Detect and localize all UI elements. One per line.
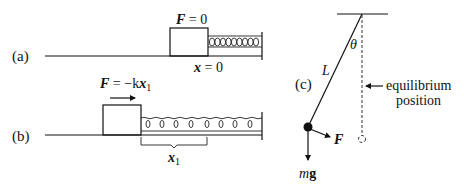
equilibrium-label-line1: equilibrium	[386, 78, 451, 93]
force-label-a: F = 0	[175, 12, 207, 27]
spring-b	[141, 117, 262, 131]
block-b	[103, 105, 141, 135]
equilibrium-bob	[359, 136, 366, 143]
restoring-force-label: F	[333, 132, 344, 147]
panel-b-label: (b)	[12, 128, 30, 145]
force-label-b: F = −kx1	[99, 76, 151, 93]
pendulum-bob	[304, 123, 313, 132]
physics-diagram: (a) F = 0 x = 0 (b) F = −kx1	[0, 0, 472, 189]
spring-a	[208, 36, 262, 47]
displacement-brace	[141, 137, 207, 148]
block-a	[170, 28, 208, 56]
weight-label: mg	[299, 166, 316, 181]
panel-b: (b) F = −kx1 x1	[12, 76, 262, 167]
panel-a-label: (a)	[12, 48, 29, 65]
position-label-a: x = 0	[193, 60, 223, 75]
equilibrium-label-line2: position	[396, 93, 441, 108]
restoring-force-arrow	[310, 129, 330, 137]
pendulum-rod	[308, 14, 362, 127]
length-label: L	[321, 63, 330, 78]
angle-label: θ	[350, 37, 357, 52]
panel-c-label: (c)	[295, 76, 312, 93]
displacement-label-b: x1	[167, 150, 180, 167]
panel-a: (a) F = 0 x = 0	[12, 12, 262, 75]
panel-c: θ L (c) equilibrium position F mg	[295, 14, 451, 181]
